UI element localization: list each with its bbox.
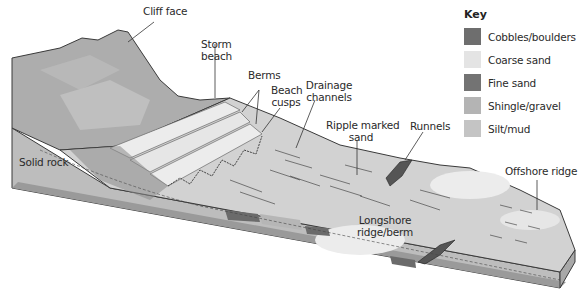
label-offshore-ridge: Offshore ridge xyxy=(505,165,577,177)
label-longshore-ridge: Longshore ridge/berm xyxy=(355,214,415,238)
legend-label: Silt/mud xyxy=(488,123,530,135)
legend-label: Fine sand xyxy=(488,77,536,89)
legend-item-fine-sand: Fine sand xyxy=(464,74,584,91)
label-beach-cusps-line1: Beach xyxy=(271,84,301,96)
legend-item-shingle-gravel: Shingle/gravel xyxy=(464,97,584,114)
swatch-coarse-sand xyxy=(464,51,481,68)
label-storm-beach-line2: beach xyxy=(201,50,231,62)
legend-label: Cobbles/boulders xyxy=(488,31,576,43)
label-ripple-marked-sand: Ripple marked sand xyxy=(326,119,396,143)
legend: Key Cobbles/boulders Coarse sand Fine sa… xyxy=(464,8,584,143)
label-longshore-ridge-line2: ridge/berm xyxy=(355,226,415,238)
swatch-fine-sand xyxy=(464,74,481,91)
swatch-shingle-gravel xyxy=(464,97,481,114)
label-cliff-face: Cliff face xyxy=(143,5,187,17)
legend-label: Coarse sand xyxy=(488,54,551,66)
label-runnels: Runnels xyxy=(410,120,450,132)
label-ripple-marked-sand-line1: Ripple marked xyxy=(326,119,396,131)
legend-title: Key xyxy=(464,8,584,20)
swatch-silt-mud xyxy=(464,120,481,137)
label-drainage-channels-line2: channels xyxy=(304,91,354,103)
label-longshore-ridge-line1: Longshore xyxy=(355,214,415,226)
swatch-cobbles-boulders xyxy=(464,28,481,45)
label-storm-beach-line1: Storm xyxy=(201,38,231,50)
coarse-sand-patch-3 xyxy=(500,210,560,230)
label-drainage-channels-line1: Drainage xyxy=(304,79,354,91)
label-beach-cusps: Beach cusps xyxy=(271,84,301,108)
label-ripple-marked-sand-line2: sand xyxy=(326,131,396,143)
label-drainage-channels: Drainage channels xyxy=(304,79,354,103)
legend-item-silt-mud: Silt/mud xyxy=(464,120,584,137)
legend-item-coarse-sand: Coarse sand xyxy=(464,51,584,68)
legend-item-cobbles-boulders: Cobbles/boulders xyxy=(464,28,584,45)
label-solid-rock: Solid rock xyxy=(19,156,68,168)
legend-label: Shingle/gravel xyxy=(488,100,561,112)
label-storm-beach: Storm beach xyxy=(201,38,231,62)
coarse-sand-patch-1 xyxy=(430,171,510,199)
beach-diagram: Cliff face Storm beach Berms Beach cusps… xyxy=(0,0,586,290)
label-berms: Berms xyxy=(248,69,281,81)
label-beach-cusps-line2: cusps xyxy=(271,96,301,108)
